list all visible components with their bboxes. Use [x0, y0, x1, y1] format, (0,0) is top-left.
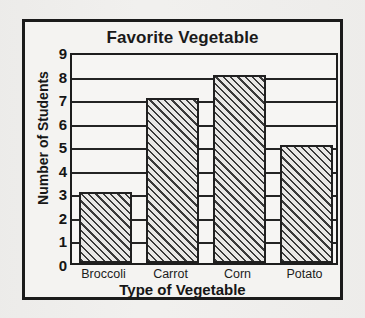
- plot-area: [70, 53, 338, 265]
- plot-inner: [72, 55, 336, 263]
- x-axis-tick-corn: Corn: [204, 267, 271, 281]
- bar-potato: [280, 145, 334, 263]
- gridline-7: [72, 101, 336, 103]
- chart-figure-frame: Favorite Vegetable Number of Students 01…: [22, 19, 343, 300]
- x-axis-title: Type of Vegetable: [25, 281, 340, 298]
- y-axis-tick-0: 0: [47, 258, 67, 273]
- y-axis-tick-4: 4: [47, 163, 67, 178]
- bar-carrot: [146, 98, 200, 263]
- y-axis-tick-9: 9: [47, 46, 67, 61]
- bar-broccoli: [79, 192, 133, 263]
- y-axis-tick-7: 7: [47, 93, 67, 108]
- y-axis-tick-labels: 0123456789: [47, 53, 67, 265]
- gridline-8: [72, 78, 336, 80]
- gridline-6: [72, 125, 336, 127]
- x-axis-tick-broccoli: Broccoli: [70, 267, 137, 281]
- bar-corn: [213, 75, 267, 263]
- y-axis-tick-1: 1: [47, 234, 67, 249]
- chart-title: Favorite Vegetable: [25, 28, 340, 48]
- y-axis-tick-8: 8: [47, 69, 67, 84]
- x-axis-tick-carrot: Carrot: [137, 267, 204, 281]
- y-axis-tick-5: 5: [47, 140, 67, 155]
- y-axis-tick-6: 6: [47, 116, 67, 131]
- y-axis-tick-2: 2: [47, 210, 67, 225]
- y-axis-tick-3: 3: [47, 187, 67, 202]
- x-axis-tick-potato: Potato: [271, 267, 338, 281]
